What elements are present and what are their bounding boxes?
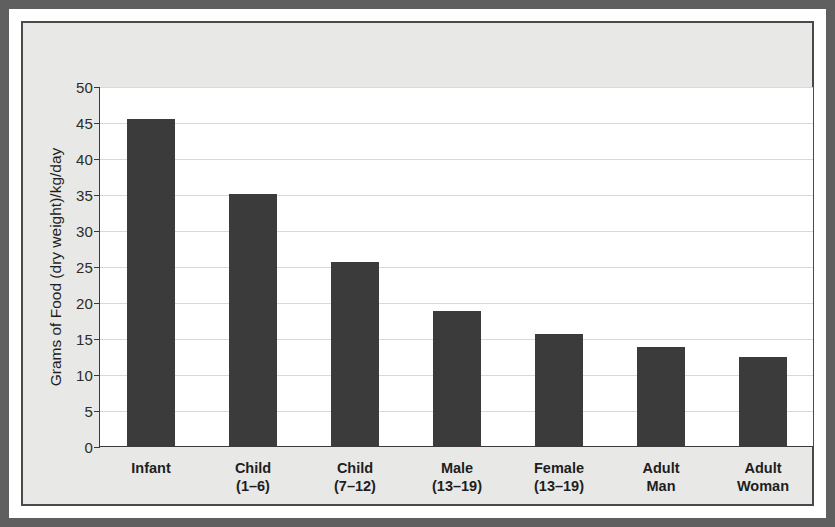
chart-panel: Grams of Food (dry weight)/kg/day 051015… bbox=[21, 21, 814, 506]
bar bbox=[535, 334, 583, 446]
bar-series bbox=[100, 87, 813, 446]
y-tick-label: 0 bbox=[84, 439, 93, 456]
y-tick-label: 10 bbox=[76, 367, 93, 384]
y-axis-title-text: Grams of Food (dry weight)/kg/day bbox=[47, 148, 65, 387]
bar bbox=[229, 194, 277, 446]
y-tick-label: 30 bbox=[76, 223, 93, 240]
y-tick-label: 15 bbox=[76, 331, 93, 348]
plot-area: 05101520253035404550 InfantChild (1–6)Ch… bbox=[99, 87, 813, 447]
y-tick-label: 35 bbox=[76, 187, 93, 204]
bar bbox=[433, 311, 481, 446]
figure-frame: Grams of Food (dry weight)/kg/day 051015… bbox=[0, 0, 835, 527]
y-tick-label: 45 bbox=[76, 115, 93, 132]
y-tick-label: 40 bbox=[76, 151, 93, 168]
x-tick-label: Adult Woman bbox=[688, 460, 835, 495]
y-tick-label: 5 bbox=[84, 403, 93, 420]
bar bbox=[127, 119, 175, 446]
bar bbox=[739, 357, 787, 446]
bar bbox=[331, 262, 379, 446]
bar bbox=[637, 347, 685, 446]
y-tick-label: 50 bbox=[76, 79, 93, 96]
y-tick-label: 25 bbox=[76, 259, 93, 276]
y-tick-label: 20 bbox=[76, 295, 93, 312]
y-tick-mark bbox=[94, 447, 100, 448]
y-axis-title: Grams of Food (dry weight)/kg/day bbox=[45, 87, 67, 447]
